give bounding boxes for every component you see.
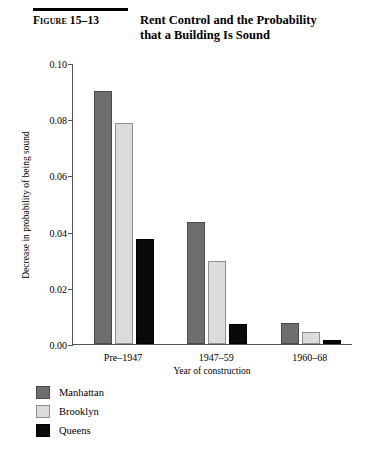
y-axis-tick-mark <box>68 345 73 346</box>
y-axis-tick-label: 0.10 <box>50 59 68 70</box>
bar-queens-2 <box>323 340 341 344</box>
bar-manhattan-2 <box>281 323 299 344</box>
bar-brooklyn-1 <box>208 261 226 344</box>
legend-item-brooklyn: Brooklyn <box>36 402 104 421</box>
legend-label-brooklyn: Brooklyn <box>59 406 99 417</box>
x-axis-category-label: 1960–68 <box>292 352 327 363</box>
y-axis-tick-mark <box>68 176 73 177</box>
y-axis-tick-label: 0.00 <box>50 340 68 351</box>
legend-swatch-manhattan <box>36 386 50 399</box>
legend-item-manhattan: Manhattan <box>36 383 104 402</box>
bar-brooklyn-0 <box>115 123 133 344</box>
bar-manhattan-1 <box>187 222 205 344</box>
bar-queens-0 <box>136 239 154 344</box>
bar-brooklyn-2 <box>302 332 320 344</box>
legend-label-manhattan: Manhattan <box>59 387 104 398</box>
x-axis-category-label: Pre–1947 <box>104 352 142 363</box>
y-axis-tick-label: 0.06 <box>50 171 68 182</box>
y-axis-tick-mark <box>68 120 73 121</box>
y-axis-tick-label: 0.02 <box>50 283 68 294</box>
legend-swatch-brooklyn <box>36 405 50 418</box>
chart-legend: ManhattanBrooklynQueens <box>36 383 104 440</box>
legend-label-queens: Queens <box>59 425 91 436</box>
y-axis-label: Decrease in probability of being sound <box>21 131 31 278</box>
y-axis-tick-mark <box>68 289 73 290</box>
y-axis-tick-mark <box>68 64 73 65</box>
y-axis-tick-label: 0.04 <box>50 227 68 238</box>
bar-manhattan-0 <box>94 91 112 344</box>
y-axis-tick-mark <box>68 233 73 234</box>
legend-swatch-queens <box>36 424 50 437</box>
plot-area: 0.000.020.040.060.080.10 <box>72 64 352 345</box>
x-axis-label: Year of construction <box>173 366 250 376</box>
x-axis-category-label: 1947–59 <box>199 352 234 363</box>
y-axis-tick-label: 0.08 <box>50 115 68 126</box>
legend-item-queens: Queens <box>36 421 104 440</box>
bar-queens-1 <box>229 324 247 344</box>
